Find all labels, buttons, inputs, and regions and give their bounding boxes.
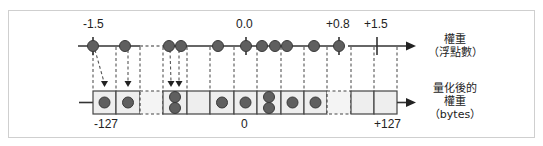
quantized-tick-label: -127 [94,117,118,131]
quantized-axis-title: 量化後的 權重 （bytes） [420,82,490,121]
float-tick-label: +1.5 [364,17,388,31]
quantized-axis-title-line2: 權重 [420,95,490,108]
float-tick-label: 0.0 [236,17,253,31]
quantized-axis-title-line1: 量化後的 [420,82,490,95]
float-tick-label: -1.5 [83,17,104,31]
float-tick-label: +0.8 [326,17,350,31]
quantized-axis-title-line3: （bytes） [420,108,490,121]
float-axis-title-line2: （浮點數） [420,46,490,59]
float-axis-title: 權重 （浮點數） [420,33,490,59]
quantization-diagram: -1.5 0.0 +0.8 +1.5 權重 （浮點數） -127 0 +127 … [0,0,543,146]
float-axis-title-line1: 權重 [420,33,490,46]
quantized-tick-label: 0 [241,117,248,131]
quantized-tick-label: +127 [374,117,401,131]
